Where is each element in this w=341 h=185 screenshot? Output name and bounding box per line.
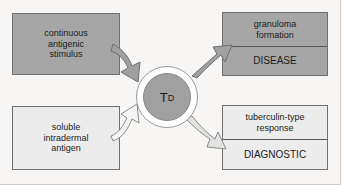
td-label-main: T [160,90,168,105]
td-cell-inner-circle: TD [143,73,191,121]
arrow-td-to-diagnostic [185,116,226,149]
arrow-stimulus-to-td [111,44,140,82]
arrow-antigen-to-td [111,104,139,141]
diagram-canvas: continuous antigenic stimulus soluble in… [0,0,341,185]
arrow-td-to-disease [192,45,232,78]
td-label-subscript: D [168,93,175,103]
td-cell-node: TD [136,66,198,128]
